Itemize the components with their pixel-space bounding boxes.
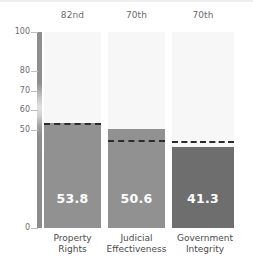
reference-line-property-rights <box>44 123 101 125</box>
percentile-label-row: 82nd 70th 70th <box>0 10 253 26</box>
y-tick-mark-100 <box>31 32 38 33</box>
bar-government-integrity[interactable]: 41.3 <box>172 147 234 228</box>
y-tick-label-70: 70 <box>2 87 30 95</box>
category-label-property-rights: Property Rights <box>44 233 101 255</box>
y-tick-label-60: 60 <box>2 106 30 114</box>
y-tick-mark-50 <box>31 130 38 131</box>
bar-value-property-rights: 53.8 <box>44 191 101 206</box>
percentile-label-property-rights: 82nd <box>44 10 101 20</box>
top-divider <box>0 0 253 2</box>
chart-container: 82nd 70th 70th 100 80 70 60 50 0 53.8 50… <box>0 0 253 260</box>
category-label-government-integrity: Government Integrity <box>170 233 240 255</box>
category-label-line-1: Government <box>170 233 240 244</box>
category-label-line-1: Judicial <box>104 233 169 244</box>
y-tick-mark-70 <box>31 91 38 92</box>
category-label-line-2: Rights <box>44 244 101 255</box>
bar-value-judicial-effectiveness: 50.6 <box>108 191 165 206</box>
y-tick-label-80: 80 <box>2 67 30 75</box>
y-tick-mark-0 <box>31 228 38 229</box>
y-tick-mark-80 <box>31 71 38 72</box>
percentile-label-government-integrity: 70th <box>172 10 234 20</box>
y-tick-label-50: 50 <box>2 126 30 134</box>
percentile-label-judicial-effectiveness: 70th <box>108 10 165 20</box>
reference-line-government-integrity <box>172 141 234 143</box>
y-tick-label-0: 0 <box>2 224 30 232</box>
y-tick-label-100: 100 <box>2 28 30 36</box>
category-label-line-2: Effectiveness <box>104 244 169 255</box>
bar-property-rights[interactable]: 53.8 <box>44 123 101 228</box>
category-label-line-1: Property <box>44 233 101 244</box>
bar-value-government-integrity: 41.3 <box>172 191 234 206</box>
reference-line-judicial-effectiveness <box>108 140 165 142</box>
bar-judicial-effectiveness[interactable]: 50.6 <box>108 129 165 228</box>
y-tick-mark-60 <box>31 110 38 111</box>
plot-area: 53.8 50.6 41.3 <box>44 32 249 228</box>
category-label-judicial-effectiveness: Judicial Effectiveness <box>104 233 169 255</box>
y-axis-labels: 100 80 70 60 50 0 <box>0 0 30 260</box>
category-label-line-2: Integrity <box>170 244 240 255</box>
